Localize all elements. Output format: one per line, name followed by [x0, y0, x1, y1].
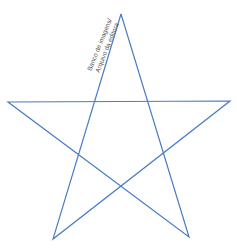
star-outline: [8, 14, 230, 239]
star-diagram: Banco de imagens/ Arquivo da editora: [0, 0, 237, 248]
star-shape: [0, 0, 237, 248]
